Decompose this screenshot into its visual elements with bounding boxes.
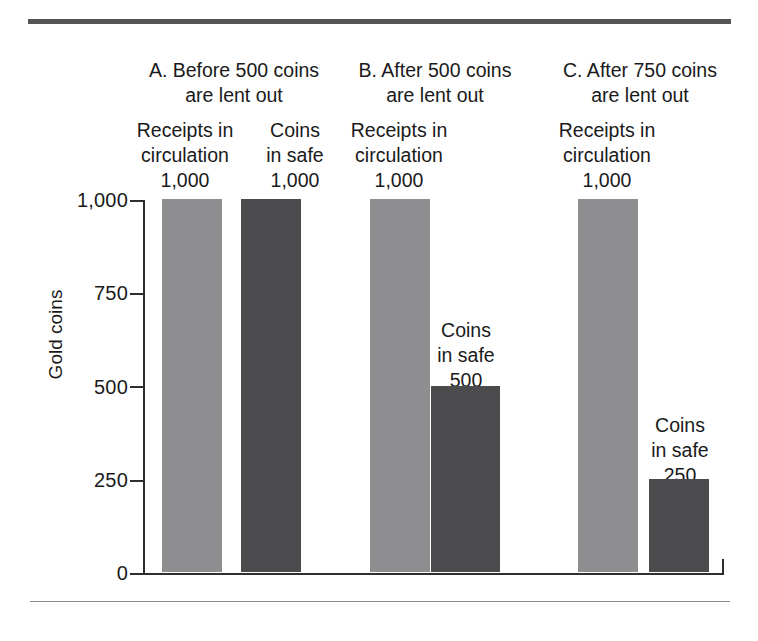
bar-b-receipts <box>370 199 430 572</box>
y-tick-label-250: 250 <box>94 470 128 490</box>
bar-value-a-receipts: 1,000 <box>120 168 250 193</box>
y-tick-0 <box>130 573 143 575</box>
bar-b-coins <box>431 386 500 572</box>
bottom-rule <box>30 601 730 602</box>
bar-caption-c-receipts: Receipts in circulation <box>542 118 672 168</box>
group-title-c: C. After 750 coins are lent out <box>525 58 755 108</box>
y-tick-label-1000: 1,000 <box>77 190 128 210</box>
bar-value-c-receipts: 1,000 <box>542 168 672 193</box>
bar-value-b-receipts: 1,000 <box>334 168 464 193</box>
group-title-a: A. Before 500 coins are lent out <box>114 58 354 108</box>
y-tick-250 <box>130 480 143 482</box>
y-tick-1000 <box>130 200 143 202</box>
y-tick-label-0: 0 <box>117 563 128 583</box>
x-axis-right-stub <box>722 559 724 575</box>
y-tick-750 <box>130 293 143 295</box>
y-axis-line <box>143 200 145 575</box>
figure-container: A. Before 500 coins are lent out B. Afte… <box>0 0 758 641</box>
bar-a-coins <box>241 199 301 572</box>
x-axis-line <box>143 573 724 575</box>
group-title-b: B. After 500 coins are lent out <box>320 58 550 108</box>
plot-area <box>143 200 723 574</box>
y-axis-title: Gold coins <box>46 275 65 395</box>
bar-c-coins <box>649 479 709 572</box>
bar-caption-a-receipts: Receipts in circulation <box>120 118 250 168</box>
bar-caption-b-receipts: Receipts in circulation <box>334 118 464 168</box>
bar-c-receipts <box>578 199 638 572</box>
y-tick-label-750: 750 <box>94 283 128 303</box>
y-tick-500 <box>130 386 143 388</box>
bar-a-receipts <box>162 199 222 572</box>
y-tick-label-500: 500 <box>94 377 128 397</box>
top-rule <box>28 19 731 24</box>
